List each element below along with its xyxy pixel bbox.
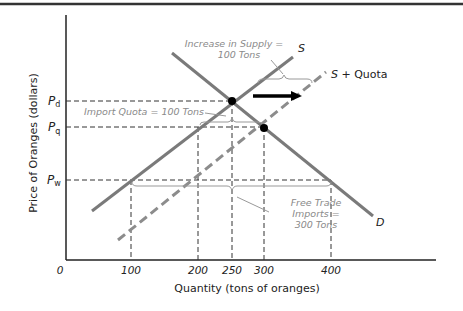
price-pq-sub: q — [55, 127, 60, 136]
free-trade-annotation-line3: 300 Tons — [295, 219, 338, 230]
price-label-pw: Pw — [47, 173, 61, 188]
x-tick-0: 0 — [57, 264, 64, 276]
x-tick-300: 300 — [254, 264, 274, 276]
price-pw-sub: w — [54, 179, 61, 188]
x-tick-200: 200 — [188, 264, 208, 276]
demand-label: D — [376, 216, 384, 229]
supply-quota-suffix: + Quota — [338, 68, 388, 81]
import-quota-annotation: Import Quota = 100 Tons — [84, 106, 204, 117]
x-tick-400: 400 — [321, 264, 341, 276]
free-trade-annotation-line1: Free Trade — [291, 197, 342, 208]
shift-arrow-head — [291, 91, 302, 101]
equilibrium-dot-pd — [228, 97, 236, 105]
x-tick-250: 250 — [222, 264, 242, 276]
price-label-pq: Pq — [48, 120, 60, 136]
increase-annotation-line2: 100 Tons — [218, 49, 261, 60]
increase-annotation-line1: Increase in Supply = — [185, 38, 283, 49]
supply-quota-label: S + Quota — [331, 68, 388, 81]
x-tick-100: 100 — [121, 264, 141, 276]
supply-label: S — [298, 42, 305, 55]
y-axis-title: Price of Oranges (dollars) — [27, 73, 40, 213]
quota-chart: S S + Quota D Increase in Supply = 100 T… — [0, 0, 463, 311]
price-pd-sub: d — [55, 100, 60, 109]
price-label-pd: Pd — [48, 94, 60, 109]
equilibrium-dot-pq — [260, 124, 268, 132]
supply-quota-s: S — [331, 68, 338, 81]
supply-curve — [92, 57, 293, 211]
free-trade-annotation-line2: Imports = — [292, 208, 339, 219]
x-axis-title: Quantity (tons of oranges) — [174, 282, 319, 295]
